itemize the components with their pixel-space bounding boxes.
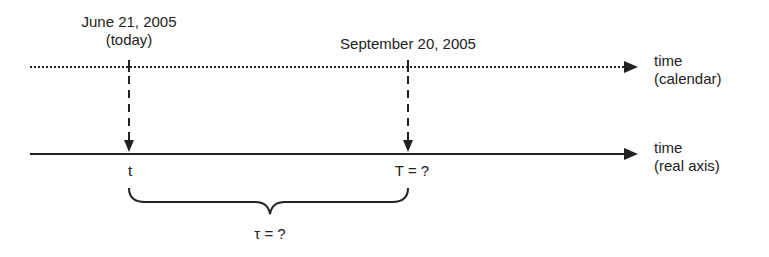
- maturity-date: September 20, 2005: [340, 35, 476, 53]
- calendar-axis-label: time (calendar): [654, 52, 722, 88]
- tau-label: τ = ?: [254, 225, 285, 243]
- interval-brace: [129, 188, 408, 214]
- timeline-diagram: June 21, 2005 (today) September 20, 2005…: [0, 0, 769, 257]
- mapping-arrowhead-maturity: [403, 140, 413, 152]
- today-date-label: June 21, 2005 (today): [81, 13, 176, 49]
- t-label: t: [128, 162, 132, 180]
- real-axis-label: time (real axis): [654, 139, 720, 175]
- real-axis-subtitle: (real axis): [654, 157, 720, 175]
- mapping-arrowhead-today: [124, 140, 134, 152]
- today-note: (today): [81, 31, 176, 49]
- calendar-axis-subtitle: (calendar): [654, 70, 722, 88]
- T-label: T = ?: [395, 162, 429, 180]
- maturity-date-label: September 20, 2005: [340, 35, 476, 53]
- calendar-axis-arrowhead: [624, 61, 638, 73]
- today-date: June 21, 2005: [81, 13, 176, 31]
- real-axis-arrowhead: [624, 148, 638, 160]
- real-axis-title: time: [654, 139, 720, 157]
- calendar-axis-title: time: [654, 52, 722, 70]
